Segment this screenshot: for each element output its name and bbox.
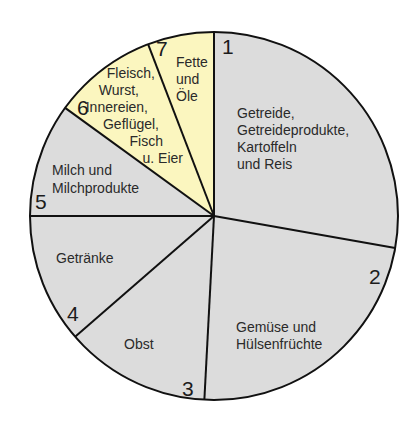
segment-6-label-line-2: Wurst,	[99, 82, 139, 98]
pie-chart: 1 Getreide, Getreideprodukte, Kartoffeln…	[0, 0, 414, 435]
segment-1-label-line-3: Kartoffeln	[237, 139, 297, 155]
segment-1-number: 1	[222, 35, 234, 58]
segment-7-label-line-3: Öle	[176, 87, 198, 104]
segment-6-label-line-5: Fisch	[130, 133, 163, 149]
segment-6-label-line-4: Geflügel,	[103, 116, 159, 132]
segment-5-label-line-2: Milchprodukte	[52, 180, 139, 196]
segment-5-number: 5	[35, 190, 47, 213]
segment-6-label-line-1: Fleisch,	[107, 65, 155, 81]
segment-1-label-line-1: Getreide,	[237, 105, 295, 121]
segment-1-label-line-2: Getreideprodukte,	[237, 122, 349, 138]
segment-6-label-line-3: Innereien,	[86, 99, 148, 115]
segment-7-label-line-2: und	[176, 71, 199, 87]
segment-3-number: 3	[182, 377, 194, 400]
segment-2-number: 2	[369, 265, 381, 288]
segment-3-label-line-1: Obst	[124, 336, 154, 352]
segment-4-label-line-1: Getränke	[56, 250, 114, 266]
segment-6-label-line-6: u. Eier	[143, 150, 184, 166]
segment-4-number: 4	[67, 302, 79, 325]
segment-2-label-line-2: Hülsenfrüchte	[236, 336, 323, 352]
segment-7-label-line-1: Fette	[176, 54, 208, 70]
segment-5-label-line-1: Milch und	[52, 162, 112, 178]
segment-2-label-line-1: Gemüse und	[236, 319, 316, 335]
segment-1-label-line-4: und Reis	[237, 156, 292, 172]
segment-7-number: 7	[156, 37, 168, 60]
